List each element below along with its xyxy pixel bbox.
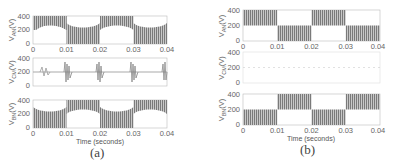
subplot-b-vbn: 400 200 0 0 0.01 0.02 0.03 0.04 Time (se…: [217, 90, 385, 143]
svg-text:0.04: 0.04: [160, 129, 175, 138]
svg-text:200: 200: [227, 105, 240, 114]
svg-text:0: 0: [241, 126, 245, 135]
svg-text:0: 0: [31, 129, 35, 138]
svg-text:0: 0: [236, 36, 240, 45]
panel-b-chart: 400 200 0 0 0.01 0.02 0.03 0.04 VAN(V) 4…: [200, 0, 394, 150]
svg-text:0.02: 0.02: [304, 126, 319, 135]
svg-text:VAN(V): VAN(V): [217, 14, 227, 37]
svg-text:400: 400: [17, 54, 30, 63]
svg-text:0: 0: [31, 45, 35, 54]
svg-text:400: 400: [227, 6, 240, 15]
panel-b: 400 200 0 0 0.01 0.02 0.03 0.04 VAN(V) 4…: [200, 0, 394, 150]
svg-text:0.02: 0.02: [93, 45, 108, 54]
svg-text:400: 400: [17, 12, 30, 21]
svg-text:0: 0: [26, 39, 30, 48]
svg-text:400: 400: [227, 48, 240, 57]
subplot-a-vbn: 400 200 0 0 0.01 0.02 0.03 0.04 Time (se…: [7, 96, 174, 146]
subplot-b-van: 400 200 0 0 0.01 0.02 0.03 0.04 VAN(V): [217, 6, 385, 51]
svg-text:VAN(V): VAN(V): [7, 18, 17, 41]
caption-b: (b): [300, 142, 315, 158]
panel-a-chart: 400 200 0 0 0.01 0.02 0.03 0.04 VAN(V) 4…: [0, 0, 200, 150]
svg-text:VCM(V): VCM(V): [7, 60, 17, 84]
svg-text:0.03: 0.03: [126, 129, 141, 138]
svg-text:0.03: 0.03: [338, 126, 353, 135]
svg-text:0.04: 0.04: [160, 45, 175, 54]
svg-text:0.01: 0.01: [59, 45, 74, 54]
svg-text:VBN(V): VBN(V): [7, 102, 17, 125]
svg-text:0.03: 0.03: [126, 45, 141, 54]
svg-text:0.01: 0.01: [270, 126, 285, 135]
svg-text:200: 200: [227, 21, 240, 30]
svg-text:0.02: 0.02: [304, 42, 319, 51]
svg-text:VCM(V): VCM(V): [217, 56, 227, 80]
svg-text:0: 0: [26, 123, 30, 132]
svg-text:0.03: 0.03: [338, 42, 353, 51]
svg-text:0: 0: [26, 81, 30, 90]
svg-text:0: 0: [241, 42, 245, 51]
subplot-b-vcm: 400 200 0 VCM(V): [217, 48, 380, 87]
svg-text:0.01: 0.01: [270, 42, 285, 51]
svg-text:200: 200: [17, 25, 30, 34]
caption-a: (a): [90, 145, 104, 161]
subplot-a-van: 400 200 0 0 0.01 0.02 0.03 0.04 VAN(V): [7, 12, 174, 54]
svg-text:200: 200: [227, 63, 240, 72]
svg-text:0.04: 0.04: [371, 126, 386, 135]
svg-text:200: 200: [17, 109, 30, 118]
svg-text:400: 400: [227, 90, 240, 99]
panel-a: 400 200 0 0 0.01 0.02 0.03 0.04 VAN(V) 4…: [0, 0, 200, 150]
subplot-a-vcm: 400 200 0 VCM(V): [7, 54, 167, 90]
svg-text:0.04: 0.04: [371, 42, 386, 51]
svg-text:0.02: 0.02: [93, 129, 108, 138]
svg-text:200: 200: [17, 67, 30, 76]
svg-text:0: 0: [236, 78, 240, 87]
svg-text:0: 0: [236, 120, 240, 129]
svg-text:0.01: 0.01: [59, 129, 74, 138]
svg-text:400: 400: [17, 96, 30, 105]
svg-text:VBN(V): VBN(V): [217, 98, 227, 121]
